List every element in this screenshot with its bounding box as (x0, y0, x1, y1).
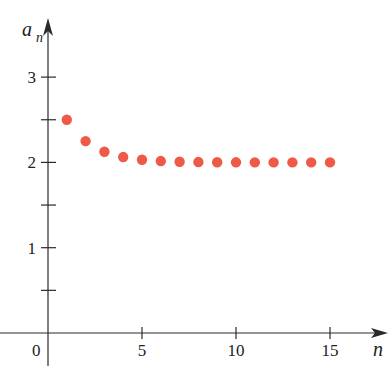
data-points (62, 115, 336, 168)
x-axis-label: n (373, 338, 383, 360)
x-tick-label: 15 (322, 341, 339, 360)
x-tick-label: 10 (228, 341, 245, 360)
y-tick-label: 3 (28, 68, 37, 87)
y-axis-label: a n (22, 18, 43, 45)
data-point (62, 115, 72, 125)
data-point (250, 157, 260, 167)
y-tick-label: 2 (28, 153, 37, 172)
y-axis-label-main: a (22, 18, 32, 40)
x-tick-label: 5 (138, 341, 147, 360)
data-point (306, 157, 316, 167)
y-tick-label: 1 (28, 239, 37, 258)
sequence-plot: 51015123 0 n a n (0, 0, 389, 366)
data-point (231, 157, 241, 167)
data-point (156, 156, 166, 166)
origin-label: 0 (32, 341, 41, 360)
data-point (287, 157, 297, 167)
data-point (268, 157, 278, 167)
data-point (137, 155, 147, 165)
ticks: 51015123 (28, 68, 339, 360)
data-point (118, 152, 128, 162)
data-point (174, 157, 184, 167)
data-point (80, 136, 90, 146)
axes (0, 18, 388, 366)
y-axis-label-sub: n (36, 30, 43, 45)
data-point (212, 157, 222, 167)
data-point (99, 147, 109, 157)
data-point (325, 157, 335, 167)
data-point (193, 157, 203, 167)
